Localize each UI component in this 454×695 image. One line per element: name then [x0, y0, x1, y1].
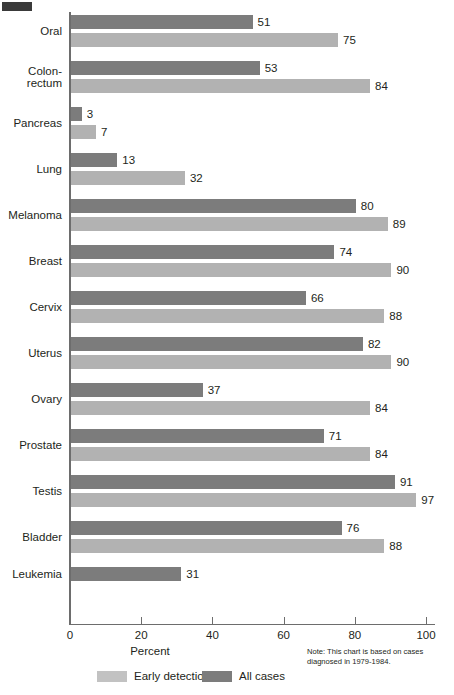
bar-early-detection: [71, 493, 416, 507]
bar-all-cases: [71, 15, 253, 29]
bar-group: Breast7490: [0, 245, 454, 277]
bar-row: 32: [71, 171, 185, 185]
bar-row: 75: [71, 33, 338, 47]
category-label: Prostate: [0, 439, 62, 452]
bar-value-early-detection: 88: [389, 539, 402, 553]
bar-all-cases: [71, 337, 363, 351]
bar-all-cases: [71, 199, 356, 213]
x-tick-label-80: 80: [348, 629, 361, 641]
legend-label-early-detection: Early detection: [134, 670, 210, 682]
bar-group: Bladder7688: [0, 521, 454, 553]
bar-row: 7: [71, 125, 96, 139]
bar-value-early-detection: 32: [190, 171, 203, 185]
x-tick-100: [426, 617, 427, 624]
bar-group: Colon- rectum5384: [0, 61, 454, 93]
bar-value-all-cases: 3: [87, 107, 93, 121]
legend-item-early-detection: Early detection: [97, 668, 210, 684]
bar-early-detection: [71, 263, 391, 277]
bar-value-early-detection: 88: [389, 309, 402, 323]
bar-value-all-cases: 31: [186, 567, 199, 581]
bar-row: 91: [71, 475, 395, 489]
bar-group: Melanoma8089: [0, 199, 454, 231]
category-label: Oral: [0, 25, 62, 38]
bar-row: 97: [71, 493, 416, 507]
bar-group: Oral5175: [0, 15, 454, 47]
bar-value-all-cases: 66: [311, 291, 324, 305]
bar-row: 31: [71, 567, 181, 581]
legend-item-all-cases: All cases: [202, 668, 285, 684]
category-label: Cervix: [0, 301, 62, 314]
bar-value-all-cases: 80: [361, 199, 374, 213]
bar-group: Testis9197: [0, 475, 454, 507]
category-label: Ovary: [0, 393, 62, 406]
bar-all-cases: [71, 291, 306, 305]
bar-early-detection: [71, 171, 185, 185]
category-label: Pancreas: [0, 117, 62, 130]
bar-row: 90: [71, 355, 391, 369]
chart-note: Note: This chart is based on cases diagn…: [307, 647, 452, 666]
bar-row: 13: [71, 153, 117, 167]
bar-value-early-detection: 7: [101, 125, 107, 139]
bar-row: 84: [71, 79, 370, 93]
bar-early-detection: [71, 447, 370, 461]
bar-value-all-cases: 37: [208, 383, 221, 397]
bar-early-detection: [71, 539, 384, 553]
bar-row: 37: [71, 383, 203, 397]
bar-early-detection: [71, 401, 370, 415]
bar-row: 90: [71, 263, 391, 277]
category-label: Colon- rectum: [0, 65, 62, 90]
bar-group: Prostate7184: [0, 429, 454, 461]
bar-group: Ovary3784: [0, 383, 454, 415]
bar-value-early-detection: 97: [421, 493, 434, 507]
bar-early-detection: [71, 309, 384, 323]
bar-row: 76: [71, 521, 342, 535]
bar-value-all-cases: 76: [347, 521, 360, 535]
x-tick-label-40: 40: [206, 629, 219, 641]
survival-rate-bar-chart: 020406080100 Oral5175Colon- rectum5384Pa…: [0, 0, 454, 695]
bar-all-cases: [71, 383, 203, 397]
category-label: Lung: [0, 163, 62, 176]
bar-all-cases: [71, 153, 117, 167]
x-axis-line: [69, 624, 435, 625]
category-label: Testis: [0, 485, 62, 498]
x-tick-0: [70, 617, 71, 624]
x-tick-label-60: 60: [277, 629, 290, 641]
bar-early-detection: [71, 33, 338, 47]
bar-row: 89: [71, 217, 388, 231]
bar-value-early-detection: 75: [343, 33, 356, 47]
bar-early-detection: [71, 125, 96, 139]
bar-value-early-detection: 90: [396, 263, 409, 277]
bar-early-detection: [71, 217, 388, 231]
bar-all-cases: [71, 245, 334, 259]
bar-row: 84: [71, 401, 370, 415]
bar-row: 66: [71, 291, 306, 305]
category-label: Leukemia: [0, 568, 62, 581]
bar-all-cases: [71, 429, 324, 443]
bar-group: Lung1332: [0, 153, 454, 185]
bar-row: 3: [71, 107, 82, 121]
x-tick-60: [284, 617, 285, 624]
legend-swatch-early-detection: [97, 671, 127, 682]
bar-group: Uterus8290: [0, 337, 454, 369]
bar-group: Leukemia31: [0, 567, 454, 581]
bar-value-all-cases: 82: [368, 337, 381, 351]
bar-all-cases: [71, 521, 342, 535]
bar-row: 74: [71, 245, 334, 259]
bar-row: 84: [71, 447, 370, 461]
x-tick-label-0: 0: [67, 629, 73, 641]
bar-value-all-cases: 51: [258, 15, 271, 29]
bar-value-all-cases: 53: [265, 61, 278, 75]
category-label: Melanoma: [0, 209, 62, 222]
bar-value-all-cases: 74: [339, 245, 352, 259]
bar-early-detection: [71, 355, 391, 369]
bar-row: 53: [71, 61, 260, 75]
bar-row: 51: [71, 15, 253, 29]
category-label: Breast: [0, 255, 62, 268]
bar-early-detection: [71, 79, 370, 93]
category-label: Uterus: [0, 347, 62, 360]
bar-group: Cervix6688: [0, 291, 454, 323]
x-tick-label-100: 100: [416, 629, 435, 641]
bar-all-cases: [71, 567, 181, 581]
bar-row: 71: [71, 429, 324, 443]
legend-label-all-cases: All cases: [239, 670, 285, 682]
